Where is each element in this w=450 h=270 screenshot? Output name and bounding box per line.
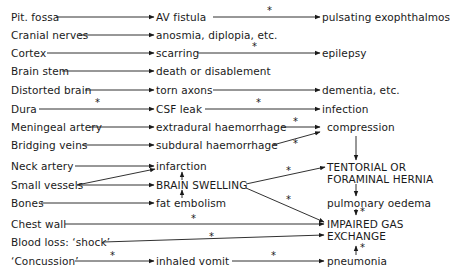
node-meningeal-artery: Meningeal artery bbox=[11, 121, 102, 133]
star-marker: * bbox=[360, 206, 365, 218]
node-subdural: subdural haemorrhage bbox=[156, 139, 278, 151]
node-pulsating-exophthalmos: pulsating exophthalmos bbox=[322, 11, 450, 23]
node-concussion: ‘Concussion’ bbox=[11, 255, 79, 267]
star-marker: * bbox=[360, 242, 365, 254]
node-bones: Bones bbox=[11, 197, 44, 209]
node-neck-artery: Neck artery bbox=[11, 160, 73, 172]
node-distorted-brain: Distorted brain bbox=[11, 84, 91, 96]
node-brain-stem: Brain stem bbox=[11, 65, 69, 77]
node-dementia: dementia, etc. bbox=[322, 84, 400, 96]
node-torn-axons: torn axons bbox=[156, 84, 213, 96]
star-marker: * bbox=[293, 138, 298, 150]
star-marker: * bbox=[286, 194, 291, 206]
node-scarring: scarring bbox=[156, 47, 199, 59]
node-cranial-nerves: Cranial nerves bbox=[11, 29, 88, 41]
node-pit-fossa: Pit. fossa bbox=[11, 11, 59, 23]
node-brain-swelling: BRAIN SWELLING bbox=[156, 179, 247, 191]
star-marker: * bbox=[209, 231, 214, 243]
star-marker: * bbox=[252, 41, 257, 53]
star-marker: * bbox=[271, 250, 276, 262]
node-cortex: Cortex bbox=[11, 47, 46, 59]
node-anosmia: anosmia, diplopia, etc. bbox=[156, 29, 278, 41]
node-bridging-veins: Bridging veins bbox=[11, 139, 87, 151]
node-pneumonia: pneumonia bbox=[327, 255, 387, 267]
node-csf-leak: CSF leak bbox=[156, 103, 202, 115]
node-chest-wall: Chest wall bbox=[11, 218, 66, 230]
node-extradural: extradural haemorrhage bbox=[156, 121, 287, 133]
star-marker: * bbox=[256, 97, 261, 109]
arrow-smallvessels-infarction bbox=[77, 169, 155, 185]
node-infarction: infarction bbox=[156, 160, 207, 172]
star-marker: * bbox=[95, 97, 100, 109]
node-av-fistula: AV fistula bbox=[156, 11, 206, 23]
node-fat-embolism: fat embolism bbox=[156, 197, 226, 209]
node-hernia-line2: FORAMINAL HERNIA bbox=[327, 173, 433, 185]
node-compression: compression bbox=[327, 121, 395, 133]
node-inhaled-vomit: inhaled vomit bbox=[156, 255, 229, 267]
star-marker: * bbox=[110, 250, 115, 262]
star-marker: * bbox=[267, 5, 272, 17]
node-hernia-line1: TENTORIAL OR bbox=[327, 161, 406, 173]
arrow-brainswelling-gasexchange bbox=[246, 188, 324, 222]
node-gas-exchange-line2: EXCHANGE bbox=[327, 230, 386, 242]
node-infection: infection bbox=[322, 103, 369, 115]
node-pulmonary-oedema: pulmonary oedema bbox=[327, 197, 431, 209]
star-marker: * bbox=[293, 116, 298, 128]
node-death-disablement: death or disablement bbox=[156, 65, 271, 77]
node-dura: Dura bbox=[11, 103, 37, 115]
node-gas-exchange-line1: IMPAIRED GAS bbox=[327, 218, 404, 230]
star-marker: * bbox=[191, 213, 196, 225]
node-epilepsy: epilepsy bbox=[322, 47, 367, 59]
node-small-vessels: Small vessels bbox=[11, 179, 83, 191]
star-marker: * bbox=[286, 165, 291, 177]
node-blood-loss: Blood loss: ‘shock’ bbox=[11, 236, 110, 248]
